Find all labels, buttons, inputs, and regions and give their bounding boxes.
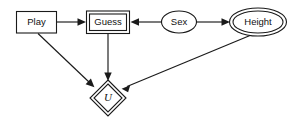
edge-sex-to-guess [131, 18, 162, 25]
edge-height-to-u-arrowhead [122, 85, 131, 92]
edge-sex-to-height-arrowhead [222, 18, 231, 25]
node-guess[interactable]: Guess [87, 11, 130, 34]
edge-play-to-guess-arrowhead [78, 18, 87, 25]
node-u-label: U [104, 91, 113, 103]
node-height[interactable]: Height [230, 8, 287, 36]
edge-height-to-u [122, 36, 250, 93]
node-play-label: Play [27, 16, 46, 27]
edge-play-to-u-line [38, 34, 90, 84]
edge-guess-to-u [104, 34, 111, 82]
edge-play-to-u [38, 34, 94, 88]
edge-sex-to-guess-arrowhead [131, 18, 140, 25]
node-guess-label: Guess [94, 16, 122, 27]
node-sex[interactable]: Sex [162, 11, 197, 33]
node-height-label: Height [244, 16, 272, 27]
influence-diagram: Play Guess Sex Height U [0, 0, 298, 126]
node-play[interactable]: Play [17, 12, 57, 34]
diagram-canvas: Play Guess Sex Height U [0, 0, 298, 126]
edge-sex-to-height [197, 18, 231, 25]
node-u[interactable]: U [90, 80, 126, 116]
node-sex-label: Sex [171, 16, 188, 27]
edge-play-to-guess [57, 18, 87, 25]
edge-height-to-u-line [127, 36, 250, 87]
